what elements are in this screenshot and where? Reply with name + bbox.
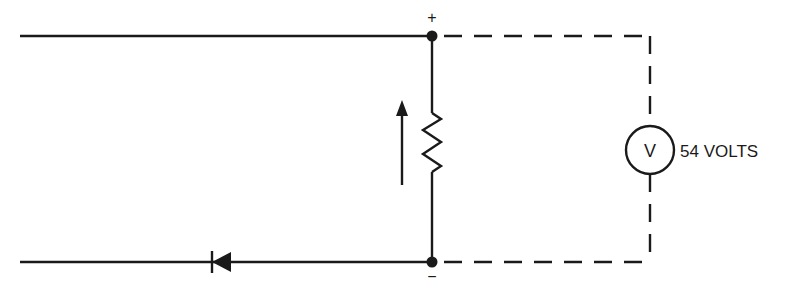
- resistor: [423, 36, 441, 262]
- voltage-reading: 54 VOLTS: [680, 142, 758, 161]
- voltmeter-symbol: V: [644, 141, 656, 161]
- negative-terminal-label: −: [427, 268, 436, 285]
- dashed-meter-leads: [444, 36, 650, 262]
- diode-icon: [212, 251, 231, 273]
- bottom-node: [427, 257, 438, 268]
- arrow-head-icon: [396, 100, 408, 116]
- circuit-diagram: + − V 54 VOLTS: [0, 0, 792, 299]
- top-node: [427, 31, 438, 42]
- positive-terminal-label: +: [427, 9, 436, 26]
